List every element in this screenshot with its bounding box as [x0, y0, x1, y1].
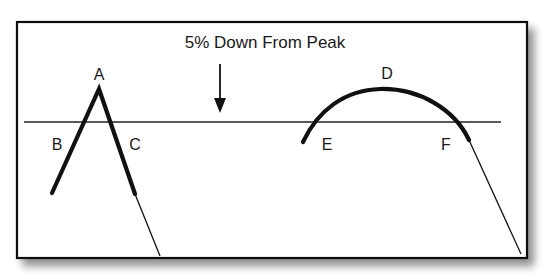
- label-b: B: [52, 136, 63, 153]
- diagram-title: 5% Down From Peak: [185, 33, 346, 52]
- label-f: F: [441, 136, 451, 153]
- label-a: A: [94, 66, 105, 83]
- diagram-svg: 5% Down From Peak A B C D E F: [0, 0, 550, 279]
- label-e: E: [322, 136, 333, 153]
- diagram-canvas: 5% Down From Peak A B C D E F: [0, 0, 550, 279]
- label-d: D: [381, 65, 393, 82]
- label-c: C: [129, 136, 141, 153]
